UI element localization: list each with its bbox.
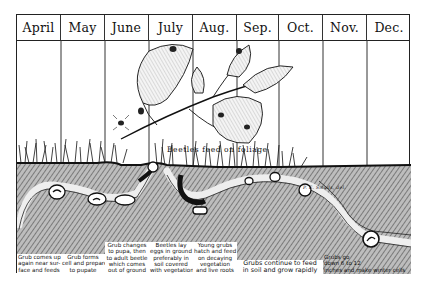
note-nov-dec: Grubs go down 6 to 12 inches and make wi… — [323, 254, 411, 274]
foliage-caption: Beetles feed on foliage — [167, 145, 268, 154]
leaf-large — [137, 44, 193, 105]
note-april: Grub comes up again near sur- face and f… — [17, 254, 61, 274]
foliage-branch — [121, 44, 293, 143]
note-sep-oct: Grubs continue to feed in soil and grow … — [237, 260, 323, 274]
note-aug: Young grubs hatch and feed on decaying v… — [193, 242, 237, 274]
artist-signature: P. E. Smuds, del. — [303, 185, 346, 190]
note-june: Grub changes to pupa, then to adult beet… — [105, 242, 149, 274]
note-july: Beetles lay eggs in ground preferably in… — [149, 242, 193, 274]
calendar-frame: April May June July Aug. Sep. Oct. Nov. … — [16, 14, 410, 273]
leaf-right — [243, 66, 293, 93]
note-may: Grub forms cell and prepares to pupate — [61, 254, 105, 274]
leaf-lower — [213, 96, 263, 143]
